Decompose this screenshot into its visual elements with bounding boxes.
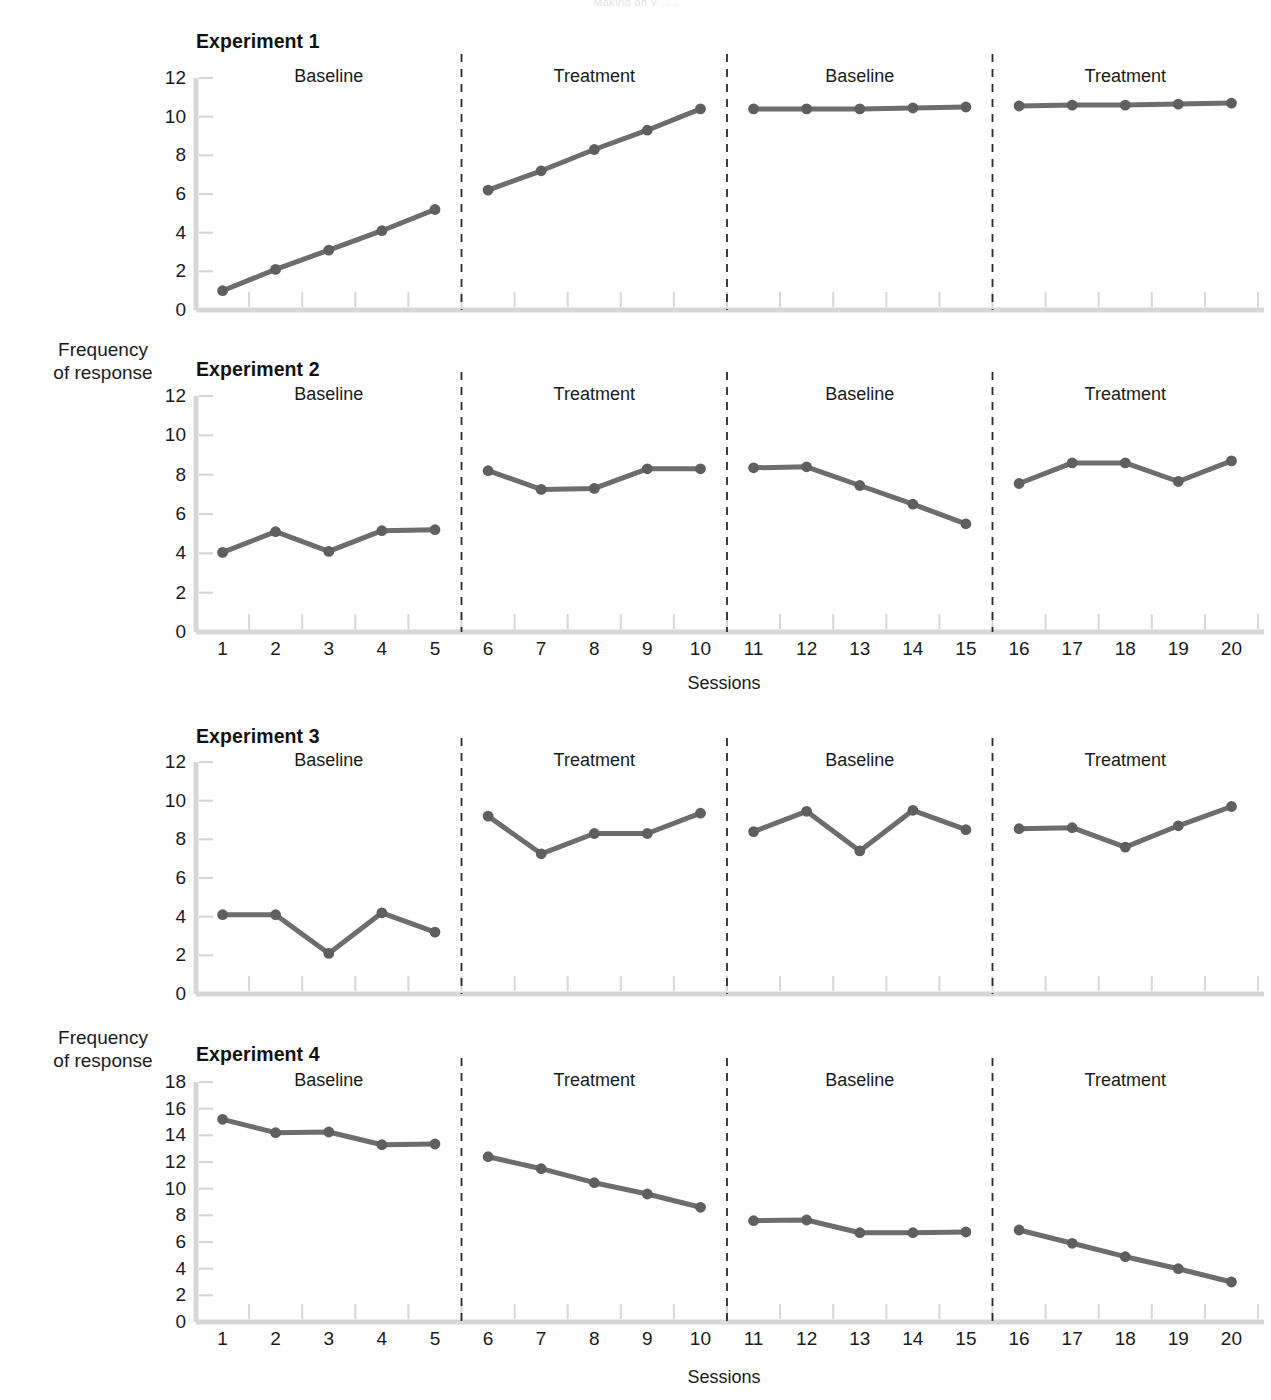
x-axis-title-lower: Sessions [687,1367,760,1388]
data-point-marker [642,828,653,839]
data-point-marker [801,104,812,115]
data-point-marker [854,846,865,857]
data-point-marker [323,1127,334,1138]
data-point-marker [642,463,653,474]
data-point-marker [1173,820,1184,831]
y-tick-label: 18 [134,1071,186,1093]
data-point-marker [1120,100,1131,111]
plot-area [196,396,1268,646]
y-tick-label: 12 [134,1151,186,1173]
x-axis-title-upper: Sessions [687,673,760,694]
y-tick-label: 0 [134,983,186,1005]
data-point-marker [483,811,494,822]
data-point-marker [748,1215,759,1226]
y-tick-label: 2 [134,582,186,604]
data-point-marker [589,828,600,839]
y-tick-label: 4 [134,542,186,564]
data-point-marker [961,518,972,529]
y-axis-title-upper: Frequency of response [28,338,178,384]
data-point-marker [270,264,281,275]
data-point-marker [217,285,228,296]
data-point-marker [536,848,547,859]
y-tick-label: 2 [134,260,186,282]
panel-title: Experiment 3 [196,725,320,748]
data-point-marker [323,948,334,959]
data-point-marker [854,480,865,491]
data-point-marker [748,104,759,115]
data-point-marker [377,525,388,536]
data-point-marker [1014,101,1025,112]
y-tick-label: 6 [134,867,186,889]
data-point-marker [908,499,919,510]
data-point-marker [430,204,441,215]
data-point-marker [217,1114,228,1125]
y-tick-label: 10 [134,790,186,812]
y-tick-label: 0 [134,621,186,643]
data-point-marker [908,103,919,114]
y-tick-label: 4 [134,1258,186,1280]
data-point-marker [483,185,494,196]
data-point-marker [589,483,600,494]
y-axis-title-upper-line2: of response [28,361,178,384]
data-point-marker [748,826,759,837]
data-point-marker [536,484,547,495]
data-point-marker [1226,1277,1237,1288]
y-tick-label: 10 [134,1178,186,1200]
data-point-marker [908,805,919,816]
y-axis-title-lower: Frequency of response [28,1026,178,1072]
y-tick-label: 10 [134,424,186,446]
y-tick-label: 4 [134,906,186,928]
data-point-marker [1067,458,1078,469]
series-line [1019,807,1231,848]
data-point-marker [1120,458,1131,469]
data-point-marker [695,104,706,115]
data-point-marker [908,1227,919,1238]
plot-area [196,762,1268,1008]
data-point-marker [323,245,334,256]
data-point-marker [854,1227,865,1238]
data-point-marker [377,1139,388,1150]
panel-title: Experiment 2 [196,358,320,381]
y-tick-label: 12 [134,385,186,407]
y-tick-label: 6 [134,503,186,525]
data-point-marker [1014,478,1025,489]
data-point-marker [1226,98,1237,109]
data-point-marker [961,102,972,113]
data-point-marker [1067,100,1078,111]
data-point-marker [1014,1225,1025,1236]
data-point-marker [961,824,972,835]
y-tick-label: 2 [134,1284,186,1306]
data-point-marker [1120,842,1131,853]
plot-area [196,1082,1268,1336]
data-point-marker [430,927,441,938]
y-tick-label: 8 [134,464,186,486]
series-line [754,810,966,851]
data-point-marker [1173,99,1184,110]
y-tick-label: 10 [134,106,186,128]
data-point-marker [536,1163,547,1174]
data-point-marker [1014,823,1025,834]
panel-title: Experiment 4 [196,1043,320,1066]
y-tick-label: 12 [134,67,186,89]
series-line [223,913,435,954]
data-point-marker [323,546,334,557]
data-point-marker [642,1189,653,1200]
data-point-marker [801,806,812,817]
y-tick-label: 8 [134,144,186,166]
y-tick-label: 2 [134,944,186,966]
data-point-marker [801,1215,812,1226]
y-tick-label: 12 [134,751,186,773]
y-tick-label: 8 [134,1204,186,1226]
y-axis-title-lower-line2: of response [28,1049,178,1072]
running-head: Making an y , . . [0,0,1271,6]
data-point-marker [695,808,706,819]
data-point-marker [377,225,388,236]
y-tick-label: 14 [134,1124,186,1146]
y-tick-label: 4 [134,222,186,244]
data-point-marker [1226,456,1237,467]
data-point-marker [1173,476,1184,487]
series-line [754,467,966,524]
data-point-marker [430,1139,441,1150]
data-point-marker [854,104,865,115]
y-tick-label: 0 [134,1311,186,1333]
